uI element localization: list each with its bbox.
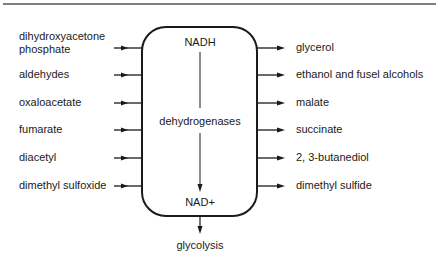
output-label-malate: malate xyxy=(296,96,329,109)
input-arrows xyxy=(114,48,142,186)
output-label-succinate: succinate xyxy=(296,123,342,136)
dehydrogenase-diagram: dihydroxyacetone phosphate aldehydes oxa… xyxy=(0,0,439,263)
output-label-ethanol-fusel-alcohols: ethanol and fusel alcohols xyxy=(296,68,423,81)
dehydrogenases-label: dehydrogenases xyxy=(159,115,240,128)
input-label-dimethyl-sulfoxide: dimethyl sulfoxide xyxy=(19,179,106,192)
output-arrowheads xyxy=(277,46,285,189)
glycolysis-arrowhead xyxy=(198,226,203,234)
input-label-diacetyl: diacetyl xyxy=(19,151,56,164)
input-arrowheads xyxy=(121,46,128,189)
output-label-dimethyl-sulfide: dimethyl sulfide xyxy=(296,179,372,192)
nadh-flow-arrowhead xyxy=(198,184,203,192)
nadh-label: NADH xyxy=(184,36,215,49)
nad-plus-label: NAD+ xyxy=(185,196,215,209)
output-arrows xyxy=(257,48,280,186)
output-label-glycerol: glycerol xyxy=(296,41,334,54)
input-label-line1: dihydroxyacetone xyxy=(19,30,105,43)
output-label-butanediol: 2, 3-butanediol xyxy=(296,151,369,164)
input-label-aldehydes: aldehydes xyxy=(19,68,69,81)
input-label-fumarate: fumarate xyxy=(19,123,62,136)
input-label-dihydroxyacetone-phosphate: dihydroxyacetone phosphate xyxy=(19,30,105,56)
glycolysis-label: glycolysis xyxy=(176,239,223,252)
input-label-line2: phosphate xyxy=(19,43,105,56)
input-label-oxaloacetate: oxaloacetate xyxy=(19,96,81,109)
